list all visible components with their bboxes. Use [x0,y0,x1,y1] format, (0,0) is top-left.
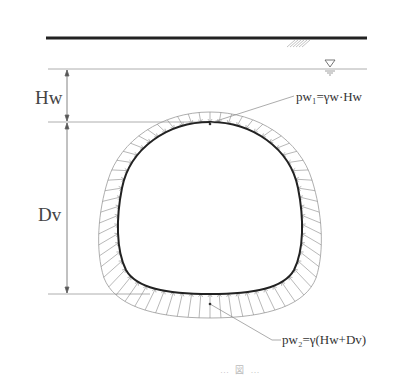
diagram-canvas [0,0,406,378]
ground-hatch-icon [287,40,310,47]
pressure-envelope [99,112,322,318]
tunnel-water-pressure-diagram: Hw Dv pw₁=γw·Hw pw₂=γ(Hw+Dv) … 図 … [0,0,406,378]
dv-dimension-line [65,123,69,293]
hw-label: Hw [35,88,62,107]
pressure-arrows [99,112,322,318]
hw-dimension-line [65,70,69,121]
pw1-leader-line [209,96,294,125]
caption-faint: … 図 … [220,366,262,375]
tunnel-lining [118,122,302,294]
dv-label: Dv [38,205,61,224]
water-level-icon [325,60,335,75]
pw1-formula-label: pw₁=γw·Hw [296,90,362,103]
pw2-leader-line [209,303,281,340]
pw2-formula-label: pw₂=γ(Hw+Dv) [282,333,366,346]
